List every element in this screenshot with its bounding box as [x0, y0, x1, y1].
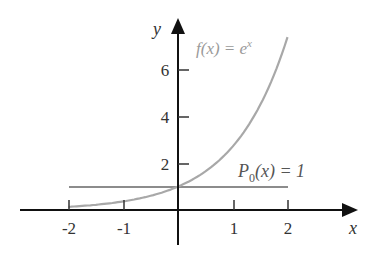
p0-label: P0(x) = 1	[237, 161, 305, 185]
xtick-label: -1	[117, 219, 131, 238]
y-ticks	[178, 70, 189, 164]
exp-curve-label: f(x) = ex	[196, 37, 252, 58]
ytick-label: 4	[161, 108, 170, 127]
y-axis-arrow-icon	[171, 18, 185, 34]
chart: -2 -1 1 2 2 4 6 x y f(x) = ex P0(x) = 1	[0, 0, 378, 254]
ytick-label: 6	[161, 61, 170, 80]
x-axis-arrow-icon	[342, 203, 358, 217]
xtick-label: 1	[230, 219, 239, 238]
xtick-label: -2	[62, 219, 76, 238]
x-axis-label: x	[348, 218, 357, 238]
xtick-label: 2	[284, 219, 293, 238]
y-axis-label: y	[151, 19, 161, 39]
ytick-label: 2	[161, 155, 170, 174]
